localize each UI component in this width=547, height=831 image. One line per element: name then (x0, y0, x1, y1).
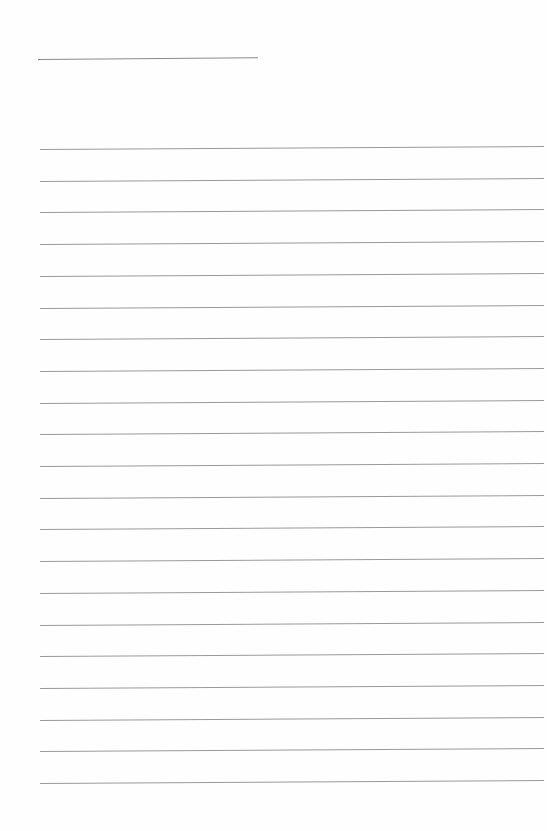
ruled-line (40, 685, 544, 689)
ruled-line (40, 653, 544, 657)
ruled-line (40, 463, 544, 467)
lined-paper-page (0, 0, 547, 831)
ruled-line (40, 780, 544, 784)
ruled-line (40, 241, 544, 245)
title-underline (38, 57, 258, 60)
ruled-line (40, 368, 544, 372)
ruled-line (40, 526, 544, 530)
ruled-line (40, 717, 544, 721)
ruled-line (40, 495, 544, 499)
ruled-line (40, 305, 544, 309)
ruled-line (40, 558, 544, 562)
ruled-line (40, 209, 544, 213)
ruled-line (40, 273, 544, 277)
ruled-line (40, 146, 544, 150)
ruled-line (40, 400, 544, 404)
ruled-line (40, 748, 544, 752)
ruled-line (40, 178, 544, 182)
ruled-line (40, 622, 544, 626)
ruled-line (40, 590, 544, 594)
ruled-line (40, 431, 544, 435)
ruled-line (40, 336, 544, 340)
